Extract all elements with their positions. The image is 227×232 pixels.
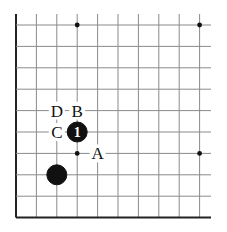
star-point xyxy=(197,23,202,28)
star-point xyxy=(75,23,80,28)
marker-d: D xyxy=(51,102,63,121)
go-board-diagram: DBCA 1 xyxy=(0,0,227,232)
board-grid xyxy=(16,14,211,218)
move-number: 1 xyxy=(74,125,81,140)
marker-a: A xyxy=(91,144,104,163)
marker-b: B xyxy=(72,102,83,121)
marker-c: C xyxy=(51,123,62,142)
black-stone xyxy=(47,165,67,185)
star-point xyxy=(75,151,80,156)
star-point xyxy=(197,151,202,156)
